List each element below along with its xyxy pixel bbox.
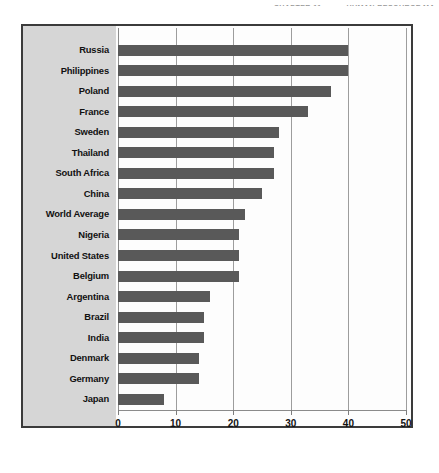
tick-label-0: 0 [115, 419, 121, 429]
category-label: United States [23, 251, 109, 260]
bar-south-africa [118, 168, 274, 179]
bar-denmark [118, 353, 199, 364]
category-label: Nigeria [23, 230, 109, 239]
bar-india [118, 332, 204, 343]
tick-label-30: 30 [285, 419, 296, 429]
category-label: South Africa [23, 168, 109, 177]
bar-sweden [118, 127, 279, 138]
category-label: Germany [23, 374, 109, 383]
running-header-chapter: CHAPTER 11 [274, 3, 322, 6]
category-label: Russia [23, 45, 109, 54]
category-label: China [23, 189, 109, 198]
category-label: Poland [23, 86, 109, 95]
bar-argentina [118, 291, 210, 302]
x-axis-line [118, 410, 406, 411]
running-header: CHAPTER 11 HUMAN RESOURCE MA [0, 0, 439, 6]
category-label: World Average [23, 209, 109, 218]
tick-label-40: 40 [343, 419, 354, 429]
tick-mark-0 [118, 410, 119, 415]
bar-germany [118, 373, 199, 384]
bar-china [118, 188, 262, 199]
category-label: France [23, 107, 109, 116]
bar-chart: RussiaPhilippinesPolandFranceSwedenThail… [21, 24, 413, 428]
bar-rows: RussiaPhilippinesPolandFranceSwedenThail… [23, 26, 411, 426]
tick-mark-20 [233, 410, 234, 415]
bar-united-states [118, 250, 239, 261]
bar-france [118, 106, 308, 117]
bar-philippines [118, 65, 348, 76]
bar-poland [118, 86, 331, 97]
bar-brazil [118, 312, 204, 323]
tick-label-10: 10 [170, 419, 181, 429]
bar-world-average [118, 209, 245, 220]
category-label: Denmark [23, 353, 109, 362]
category-label: Philippines [23, 66, 109, 75]
tick-mark-10 [176, 410, 177, 415]
bar-thailand [118, 147, 274, 158]
bar-russia [118, 45, 348, 56]
category-label: Thailand [23, 148, 109, 157]
category-label: Argentina [23, 292, 109, 301]
bar-nigeria [118, 229, 239, 240]
category-label: Sweden [23, 127, 109, 136]
tick-label-20: 20 [228, 419, 239, 429]
bar-belgium [118, 271, 239, 282]
category-label: Japan [23, 394, 109, 403]
category-label: India [23, 333, 109, 342]
running-header-title: HUMAN RESOURCE MA [346, 3, 435, 6]
category-label: Brazil [23, 312, 109, 321]
category-label: Belgium [23, 271, 109, 280]
tick-label-50: 50 [400, 419, 411, 429]
tick-mark-40 [348, 410, 349, 415]
bar-japan [118, 394, 164, 405]
tick-mark-50 [406, 410, 407, 415]
tick-mark-30 [291, 410, 292, 415]
